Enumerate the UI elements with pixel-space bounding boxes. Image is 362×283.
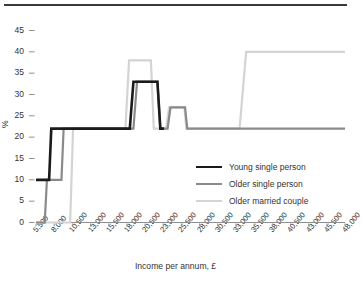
legend-swatch-older-single-person (196, 183, 222, 185)
x-axis-title: Income per annum, £ (0, 261, 351, 271)
x-axis-ticks (36, 224, 345, 227)
legend-label-young-single-person: Young single person (229, 162, 306, 172)
legend-item-older-married-couple: Older married couple (196, 192, 346, 209)
legend-item-young-single-person: Young single person (196, 158, 346, 175)
legend-label-older-single-person: Older single person (229, 179, 303, 189)
legend-label-older-married-couple: Older married couple (229, 196, 308, 206)
chart-legend: Young single person Older single person … (196, 158, 346, 209)
legend-swatch-young-single-person (196, 166, 222, 168)
y-axis-ticks (29, 31, 35, 223)
series-line (36, 82, 164, 180)
legend-swatch-older-married-couple (196, 200, 222, 202)
legend-item-older-single-person: Older single person (196, 175, 346, 192)
